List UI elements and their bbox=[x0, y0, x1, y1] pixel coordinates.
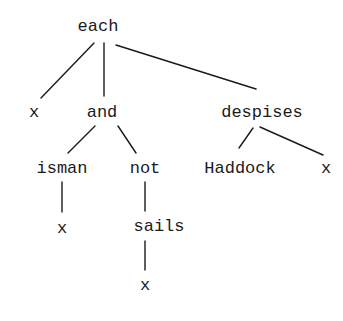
tree-edge-and-to-isman bbox=[68, 126, 95, 153]
tree-edge-and-to-not bbox=[118, 126, 136, 153]
tree-node-isman: isman bbox=[36, 160, 87, 177]
tree-node-x3: x bbox=[57, 220, 67, 237]
tree-node-Haddock: Haddock bbox=[204, 160, 275, 177]
tree-edge-each-to-despises bbox=[116, 45, 256, 89]
tree-node-x1: x bbox=[29, 104, 39, 121]
parse-tree-diagram: eachxanddespisesismannotHaddockxxsailsx bbox=[0, 0, 343, 321]
tree-node-each: each bbox=[78, 18, 119, 35]
tree-node-despises: despises bbox=[221, 104, 303, 121]
tree-node-sails: sails bbox=[133, 218, 184, 235]
tree-node-x2: x bbox=[321, 160, 331, 177]
tree-edge-each-to-x1 bbox=[41, 43, 94, 98]
tree-node-not: not bbox=[130, 160, 161, 177]
tree-edge-despises-to-Haddock bbox=[239, 128, 253, 148]
tree-node-x4: x bbox=[140, 277, 150, 294]
tree-edge-despises-to-x2 bbox=[260, 127, 323, 155]
tree-node-and: and bbox=[87, 104, 118, 121]
